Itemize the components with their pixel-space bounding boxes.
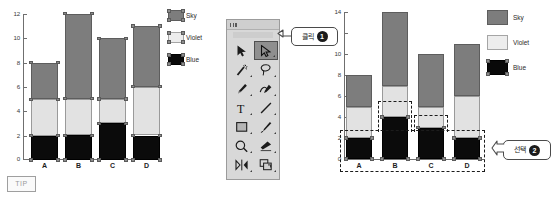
rectangle-tool[interactable] — [230, 117, 254, 136]
right-legend-swatch-sky — [487, 10, 508, 25]
tool-palette[interactable]: T — [226, 19, 280, 180]
left-bar-B[interactable] — [65, 14, 92, 160]
left-bar-C[interactable] — [99, 38, 126, 160]
magic-wand-tool[interactable] — [230, 60, 254, 79]
right-legend-label-blue: Blue — [513, 64, 526, 71]
shaper-tool[interactable] — [230, 136, 254, 155]
left-legend-row-violet[interactable]: Violet — [168, 32, 202, 43]
selection-marquee-blue-series — [340, 130, 485, 172]
right-y-tick-14: 14 — [326, 9, 341, 15]
tool-corner-indicator — [274, 75, 276, 77]
left-bar-C-seg-violet[interactable] — [99, 99, 126, 123]
tool-corner-indicator — [250, 170, 252, 172]
screenshot-stage: 12 10 8 6 4 2 0 A — [0, 0, 556, 197]
tip-label: TIP — [15, 180, 28, 188]
tool-corner-indicator — [274, 132, 276, 134]
right-legend-swatch-blue — [487, 60, 508, 75]
left-legend-label-violet: Violet — [186, 34, 202, 41]
left-y-tick-2: 2 — [4, 133, 20, 139]
selection-dash-bar-C-top — [414, 115, 448, 116]
lasso-tool[interactable] — [254, 60, 278, 79]
line-segment-tool[interactable] — [254, 98, 278, 117]
callout-select-badge: 2 — [529, 145, 540, 156]
tool-grid: T — [230, 41, 278, 174]
selection-marquee-bar-B-blue — [378, 101, 412, 132]
right-y-tick-8: 8 — [326, 72, 341, 78]
right-legend-swatch-violet — [487, 35, 508, 50]
callout-select-leader — [492, 141, 505, 161]
tool-corner-indicator — [250, 75, 252, 77]
type-tool[interactable]: T — [230, 98, 254, 117]
tool-corner-indicator — [274, 170, 276, 172]
callout-click-leader — [277, 27, 293, 49]
paintbrush-tool[interactable] — [254, 117, 278, 136]
tool-corner-indicator — [274, 151, 276, 153]
right-y-tick-2: 2 — [326, 135, 341, 141]
selection-tool[interactable] — [230, 41, 254, 60]
right-legend-row-sky[interactable]: Sky — [487, 10, 524, 25]
left-cat-B: B — [65, 162, 92, 170]
tip-box: TIP — [7, 176, 36, 192]
left-bar-D[interactable] — [133, 26, 160, 160]
left-chart: 12 10 8 6 4 2 0 A — [0, 0, 215, 180]
right-legend-row-blue[interactable]: Blue — [487, 60, 526, 75]
right-chart: 14 12 10 8 6 4 2 0 A — [330, 0, 556, 197]
left-bar-A[interactable] — [31, 63, 58, 160]
left-y-tick-6: 6 — [4, 84, 20, 90]
svg-text:T: T — [237, 101, 245, 114]
left-bar-A-seg-sky[interactable] — [31, 63, 58, 100]
left-bar-B-seg-blue[interactable] — [65, 135, 92, 160]
left-legend-swatch-sky — [168, 10, 184, 21]
left-legend-swatch-violet — [168, 32, 184, 43]
palette-subtitle-bar — [233, 32, 273, 38]
palette-title-bar[interactable] — [227, 20, 279, 30]
eraser-tool[interactable] — [254, 136, 278, 155]
selection-marquee-bar-C-blue — [414, 115, 448, 132]
right-legend-label-sky: Sky — [513, 14, 524, 21]
pen-tool[interactable] — [230, 79, 254, 98]
left-cat-C: C — [99, 162, 126, 170]
tool-corner-indicator — [273, 55, 275, 57]
left-bar-D-seg-violet[interactable] — [133, 87, 160, 136]
left-bar-C-seg-blue[interactable] — [99, 123, 126, 160]
left-bar-A-seg-blue[interactable] — [31, 136, 58, 160]
right-bar-D-seg-sky[interactable] — [454, 44, 480, 97]
right-y-tick-4: 4 — [326, 114, 341, 120]
left-y-tick-0: 0 — [4, 156, 20, 162]
free-transform-tool[interactable] — [254, 155, 278, 174]
tool-corner-indicator — [250, 132, 252, 134]
left-y-tick-8: 8 — [4, 60, 20, 66]
left-y-tick-10: 10 — [4, 35, 20, 41]
tool-corner-indicator — [274, 113, 276, 115]
left-bar-B-seg-violet[interactable] — [65, 99, 92, 136]
tool-corner-indicator — [250, 151, 252, 153]
palette-grip-icon — [230, 23, 237, 27]
left-bar-A-seg-violet[interactable] — [31, 99, 58, 136]
callout-click-text: 클릭 — [302, 33, 314, 41]
reflect-tool[interactable] — [230, 155, 254, 174]
right-legend-row-violet[interactable]: Violet — [487, 35, 529, 50]
left-legend-label-blue: Blue — [186, 56, 199, 63]
left-bar-D-seg-blue[interactable] — [133, 136, 160, 161]
right-bar-A-seg-sky[interactable] — [346, 75, 372, 107]
tool-corner-indicator — [250, 94, 252, 96]
left-legend-label-sky: Sky — [186, 12, 197, 19]
callout-select-text: 선택 — [514, 146, 526, 154]
callout-select: 선택 2 — [503, 140, 551, 160]
right-bar-B-seg-sky[interactable] — [382, 12, 408, 86]
left-y-tick-4: 4 — [4, 108, 20, 114]
left-chart-legend: Sky Violet Blue — [168, 10, 214, 72]
curvature-tool[interactable] — [254, 79, 278, 98]
left-y-tick-12: 12 — [4, 11, 20, 17]
left-legend-swatch-blue — [168, 54, 184, 65]
left-bar-C-seg-sky[interactable] — [99, 38, 126, 99]
direct-selection-tool[interactable] — [254, 41, 278, 60]
left-legend-row-blue[interactable]: Blue — [168, 54, 199, 65]
right-y-tick-0: 0 — [326, 156, 341, 162]
left-legend-row-sky[interactable]: Sky — [168, 10, 197, 21]
left-bar-D-seg-sky[interactable] — [133, 26, 160, 87]
right-bar-C-seg-sky[interactable] — [418, 54, 444, 107]
left-bar-B-seg-sky[interactable] — [65, 14, 92, 99]
right-y-tick-6: 6 — [326, 93, 341, 99]
right-y-tick-10: 10 — [326, 51, 341, 57]
